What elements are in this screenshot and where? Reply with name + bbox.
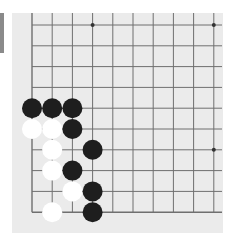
white-stone[interactable] (42, 119, 62, 139)
black-stone[interactable] (83, 181, 103, 201)
black-stone[interactable] (22, 98, 42, 118)
star-point-icon (212, 148, 216, 152)
black-stone[interactable] (62, 161, 82, 181)
star-point-icon (212, 23, 216, 27)
black-stone[interactable] (62, 119, 82, 139)
star-point-icon (91, 23, 95, 27)
white-stone[interactable] (42, 161, 62, 181)
go-board-grid[interactable] (0, 0, 228, 242)
black-stone[interactable] (62, 98, 82, 118)
white-stone[interactable] (62, 181, 82, 201)
white-stone[interactable] (22, 119, 42, 139)
black-stone[interactable] (83, 202, 103, 222)
black-stone[interactable] (42, 98, 62, 118)
white-stone[interactable] (42, 202, 62, 222)
white-stone[interactable] (42, 140, 62, 160)
black-stone[interactable] (83, 140, 103, 160)
